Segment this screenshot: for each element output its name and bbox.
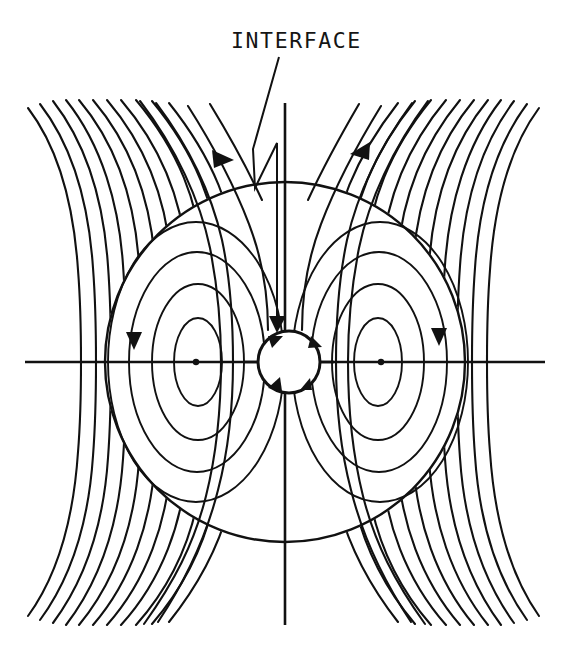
streamline-figure: INTERFACE xyxy=(0,0,567,654)
interface-label: INTERFACE xyxy=(231,28,362,53)
flow-arrow-upper-right xyxy=(350,142,370,160)
left-vortex-center-dot xyxy=(193,359,199,365)
streamline-diagram-canvas: INTERFACE xyxy=(0,0,567,654)
flow-arrow-left-vortex xyxy=(126,332,142,350)
right-vortex-center-dot xyxy=(378,359,384,365)
